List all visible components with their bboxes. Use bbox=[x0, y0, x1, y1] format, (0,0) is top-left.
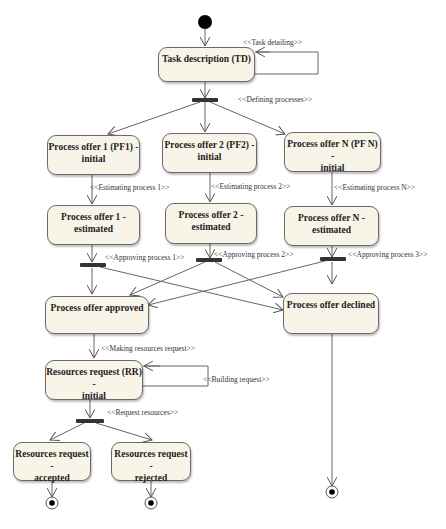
node-resources-request-accepted[interactable]: Resources request - accepted bbox=[13, 442, 91, 481]
label-making-resources-request: <<Making resources request>> bbox=[101, 344, 195, 353]
fork-bar-defining bbox=[192, 98, 218, 102]
label-estimating-n: <<Estimating process N>> bbox=[334, 183, 415, 192]
fork-bar-approving-1 bbox=[80, 263, 106, 267]
node-task-description[interactable]: Task description (TD) bbox=[158, 47, 255, 82]
node-process-offer-approved[interactable]: Process offer approved bbox=[45, 296, 149, 334]
initial-node bbox=[198, 15, 212, 29]
fork-bar-approving-3 bbox=[320, 257, 346, 261]
node-pf2-estimated[interactable]: Process offer 2 - estimated bbox=[165, 203, 257, 244]
final-nodes bbox=[46, 486, 338, 509]
node-resources-request-initial[interactable]: Resources request (RR) - initial bbox=[45, 360, 143, 400]
node-pf1-estimated[interactable]: Process offer 1 - estimated bbox=[47, 205, 140, 245]
activity-diagram: Task description (TD) Process offer 1 (P… bbox=[0, 0, 446, 529]
node-pf2-initial[interactable]: Process offer 2 (PF2) - initial bbox=[162, 133, 257, 173]
label-estimating-1: <<Estimating process 1>> bbox=[90, 183, 169, 192]
node-pf1-initial[interactable]: Process offer 1 (PF1) - initial bbox=[47, 135, 140, 175]
label-approving-3: <<Approving process 3>> bbox=[348, 250, 427, 259]
fork-bar-request bbox=[76, 419, 104, 423]
node-pfn-estimated[interactable]: Process offer N - estimated bbox=[284, 206, 379, 246]
node-process-offer-declined[interactable]: Process offer declined bbox=[283, 293, 379, 334]
label-defining-processes: <<Defining processes>> bbox=[238, 95, 312, 104]
label-estimating-2: <<Estimating process 2>> bbox=[211, 182, 290, 191]
label-request-resources: <<Request resources>> bbox=[107, 408, 178, 417]
label-task-detailing: <<Task detailing>> bbox=[243, 38, 302, 47]
node-resources-request-rejected[interactable]: Resources request - rejected bbox=[111, 442, 191, 481]
node-pfn-initial[interactable]: Process offer N (PF N) - initial bbox=[284, 132, 381, 172]
label-approving-1: <<Approving process 1>> bbox=[105, 253, 184, 262]
label-approving-2: <<Approving process 2>> bbox=[214, 250, 293, 259]
label-building-request: <<Building request>> bbox=[203, 375, 270, 384]
